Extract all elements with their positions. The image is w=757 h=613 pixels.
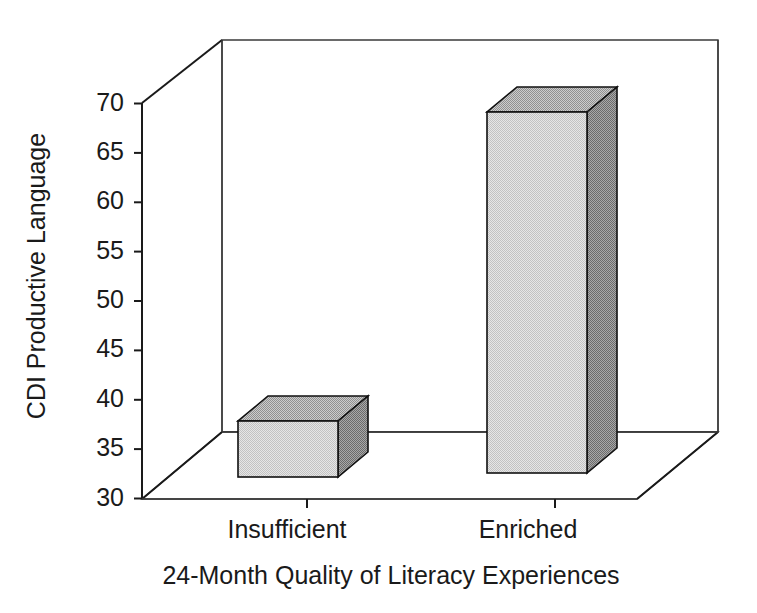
y-axis-ticks [134,104,142,499]
y-axis-tick-labels: 70 65 60 55 50 45 40 35 30 [96,88,124,511]
plot-area-3d [142,40,718,499]
y-tick-label-30: 30 [96,483,124,511]
chart-container: 70 65 60 55 50 45 40 35 30 [0,0,757,613]
y-tick-label-50: 50 [96,285,124,313]
x-axis-category-labels: Insufficient Enriched [227,515,577,543]
back-wall [222,40,718,432]
bar-enriched[interactable] [487,87,617,473]
x-axis-title: 24-Month Quality of Literacy Experiences [162,561,619,589]
bar-chart-figure: 70 65 60 55 50 45 40 35 30 [0,0,757,613]
bar-insufficient[interactable] [238,396,368,477]
x-tick-label-enriched: Enriched [479,515,578,543]
y-tick-label-65: 65 [96,137,124,165]
y-tick-label-60: 60 [96,186,124,214]
y-tick-label-40: 40 [96,384,124,412]
bar-insufficient-front [238,421,338,477]
bar-enriched-front [487,112,587,473]
y-tick-label-55: 55 [96,236,124,264]
depth-line-top-left [142,40,222,103]
y-tick-label-35: 35 [96,433,124,461]
y-axis-title: CDI Productive Language [22,133,50,419]
x-tick-label-insufficient: Insufficient [227,515,346,543]
x-axis-ticks [307,499,555,508]
bar-enriched-side [587,87,617,473]
y-tick-label-70: 70 [96,88,124,116]
floor-plane [142,432,718,499]
y-tick-label-45: 45 [96,334,124,362]
